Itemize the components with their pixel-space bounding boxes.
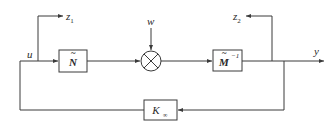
block-minv-tilde-accent: ~ — [221, 48, 226, 58]
signal-z2-label: z2 — [232, 10, 241, 25]
block-n-tilde-accent: ~ — [70, 48, 75, 58]
block-k-inf — [144, 100, 177, 120]
wire-z2-branch — [246, 16, 272, 61]
block-k-label: K — [151, 104, 160, 116]
block-diagram: N ~ M ~ −1 K ∞ u w z1 z2 y — [0, 0, 336, 130]
signal-z1-label: z1 — [65, 10, 74, 25]
signal-y-label: y — [313, 45, 319, 57]
signal-u-label: u — [27, 48, 33, 60]
summing-junction — [141, 51, 161, 71]
signal-w-label: w — [147, 15, 155, 27]
block-k-subscript: ∞ — [163, 112, 168, 118]
block-minv-superscript: −1 — [231, 52, 239, 60]
